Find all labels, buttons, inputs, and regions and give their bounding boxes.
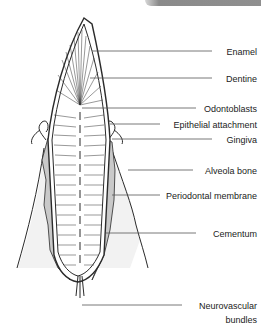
epithelial-curl-left [31,121,48,144]
label-dentine: Dentine [226,74,257,84]
label-periodontal-membrane: Periodontal membrane [166,191,257,201]
label-odontoblasts: Odontoblasts [204,104,257,114]
label-gingiva: Gingiva [226,135,257,145]
neurovascular-bundle-shape [76,276,84,298]
label-cementum: Cementum [213,229,257,239]
label-enamel: Enamel [226,47,257,57]
label-epithelial-attachment: Epithelial attachment [173,120,257,130]
label-alveola-bone: Alveola bone [205,166,257,176]
label-neurovascular: Neurovascular [199,301,257,311]
label-bundles: bundles [225,315,257,325]
